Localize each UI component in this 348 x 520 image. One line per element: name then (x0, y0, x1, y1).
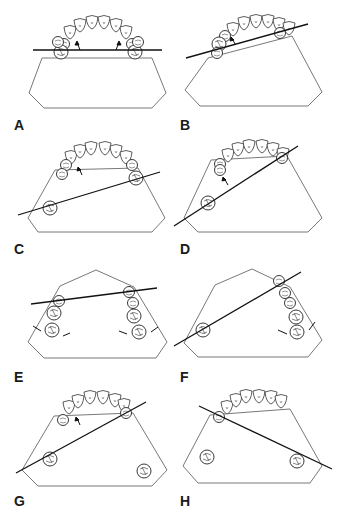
panel-label-b: B (180, 118, 190, 132)
panel-f (174, 269, 322, 357)
panel-label-c: C (14, 242, 24, 256)
fulcrum-line (186, 24, 308, 58)
arrow-head-icon (75, 417, 79, 421)
panel-a (29, 16, 166, 109)
panel-b (185, 15, 322, 107)
panel-e (28, 270, 167, 358)
panel-g (16, 391, 167, 487)
panel-label-d: D (180, 242, 190, 256)
isolated-molar-left (200, 450, 214, 464)
fulcrum-line (18, 172, 160, 215)
panel-d (174, 140, 322, 233)
anterior-teeth (59, 16, 138, 50)
figure-canvas (0, 0, 348, 520)
arrow-icon (119, 331, 127, 334)
abutment-molar-left (45, 323, 59, 337)
panel-label-f: F (180, 370, 189, 384)
fulcrum-line (16, 402, 146, 473)
panel-label-g: G (14, 494, 25, 508)
arrow-head-icon (75, 41, 79, 45)
arrow-icon (63, 333, 70, 336)
arch-outline (29, 58, 166, 108)
panel-c (18, 142, 165, 233)
isolated-molar-right (137, 464, 151, 478)
fulcrum-line (174, 272, 301, 346)
abutment-molar-right (132, 325, 146, 339)
arrow-head-icon (77, 167, 81, 171)
arch-outline (183, 409, 322, 483)
arch-outline (185, 36, 322, 106)
arrow-head-icon (117, 41, 121, 45)
arrow-head-icon (222, 177, 226, 181)
arrow-head-icon (230, 37, 234, 41)
isolated-molar-right (290, 454, 304, 468)
abutment-molar (290, 325, 304, 339)
panel-label-a: A (14, 118, 24, 132)
arch-outline (184, 156, 322, 232)
fulcrum-line (174, 146, 298, 226)
panel-h (183, 390, 332, 484)
arrow-icon (151, 327, 158, 332)
abutment-molar-left (43, 201, 57, 215)
fulcrum-line (199, 406, 332, 469)
isolated-molar (196, 323, 210, 337)
panel-label-h: H (180, 494, 190, 508)
arch-outline (28, 168, 165, 232)
arrow-icon (278, 330, 287, 334)
panel-label-e: E (14, 370, 23, 384)
